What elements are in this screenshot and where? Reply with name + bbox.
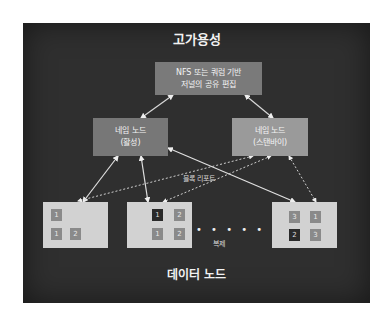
block: 1 bbox=[51, 228, 62, 240]
block: 1 bbox=[51, 209, 62, 221]
block: 2 bbox=[174, 228, 185, 240]
shared-edits-line2: 저널의 공유 편집 bbox=[181, 79, 235, 91]
name-node-standby-label: 네임 노드 bbox=[255, 125, 286, 137]
shared-edits-line1: NFS 또는 쿼럼 기반 bbox=[176, 67, 241, 79]
shared-edits-box: NFS 또는 쿼럼 기반 저널의 공유 편집 bbox=[155, 62, 262, 95]
block: 2 bbox=[289, 229, 300, 241]
data-node-3: 3 1 2 3 bbox=[272, 202, 337, 248]
block: 1 bbox=[152, 228, 163, 240]
name-node-standby: 네임 노드 (스탠바이) bbox=[232, 118, 308, 156]
data-nodes-label: 데이터 노드 bbox=[23, 265, 370, 282]
name-node-active-label: 네임 노드 bbox=[115, 125, 146, 137]
data-node-2: 1 2 1 2 bbox=[127, 202, 192, 248]
block: 2 bbox=[70, 228, 81, 240]
block: 2 bbox=[174, 209, 185, 221]
diagram-panel: 고가용성 NFS 또는 쿼럼 기반 저널의 공유 편집 네임 노드 (활성) 네… bbox=[23, 23, 370, 303]
data-node-1: 1 1 2 bbox=[43, 202, 108, 248]
replication-label: 복제 bbox=[213, 238, 225, 248]
block: 3 bbox=[310, 229, 321, 241]
name-node-active-state: (활성) bbox=[120, 137, 140, 149]
name-node-standby-state: (스탠바이) bbox=[253, 137, 287, 149]
block: 3 bbox=[289, 211, 300, 223]
block: 1 bbox=[310, 211, 321, 223]
block-report-label: 블록 리포트 bbox=[183, 173, 215, 183]
name-node-active: 네임 노드 (활성) bbox=[93, 118, 168, 156]
block: 1 bbox=[152, 209, 163, 221]
